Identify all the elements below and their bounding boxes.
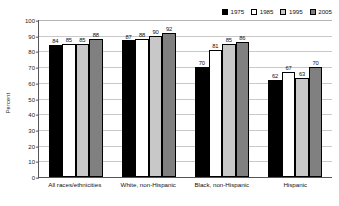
bar-slot: 67 <box>282 20 296 177</box>
bar-group: 62676370 <box>259 20 332 177</box>
bar-value-label: 81 <box>212 44 218 50</box>
bar-slot: 88 <box>135 20 149 177</box>
bar-group: 87889092 <box>112 20 185 177</box>
bar-value-label: 85 <box>79 38 85 44</box>
bar-value-label: 70 <box>199 61 205 67</box>
legend-swatch-icon <box>222 9 228 15</box>
bar-slot: 85 <box>76 20 90 177</box>
legend-swatch-icon <box>251 9 257 15</box>
bar-slot: 70 <box>309 20 323 177</box>
plot-wrapper: 1009080706050403020100 84858588878890927… <box>38 20 332 178</box>
gridline: 0 <box>39 177 332 178</box>
bar-group-bars: 70818586 <box>186 20 259 177</box>
bar-value-label: 88 <box>139 33 145 39</box>
bar-value-label: 84 <box>52 39 58 45</box>
bar-value-label: 92 <box>166 27 172 33</box>
bar-slot: 84 <box>49 20 63 177</box>
bar-slot: 86 <box>236 20 250 177</box>
bar-group: 70818586 <box>186 20 259 177</box>
bar-slot: 62 <box>268 20 282 177</box>
bar-2005[interactable]: 88 <box>89 39 103 177</box>
bar-1985[interactable]: 81 <box>209 50 223 177</box>
x-axis-labels: All races/ethnicitiesWhite, non-Hispanic… <box>38 181 332 188</box>
bar-group-bars: 87889092 <box>112 20 185 177</box>
bar-2005[interactable]: 92 <box>162 33 176 177</box>
bar-slot: 85 <box>222 20 236 177</box>
bar-value-label: 63 <box>299 72 305 78</box>
chart-legend: 1975198519952005 <box>222 9 332 15</box>
bar-value-label: 88 <box>93 33 99 39</box>
x-axis-label: All races/ethnicities <box>38 181 112 188</box>
bar-slot: 92 <box>162 20 176 177</box>
bar-1975[interactable]: 62 <box>268 80 282 177</box>
y-axis-title-text: Percent <box>5 93 11 114</box>
y-axis-title: Percent <box>2 0 14 206</box>
bar-1995[interactable]: 85 <box>222 44 236 177</box>
legend-label: 1995 <box>289 9 303 15</box>
bar-2005[interactable]: 70 <box>309 67 323 177</box>
bar-value-label: 90 <box>152 30 158 36</box>
legend-item-1975[interactable]: 1975 <box>222 9 244 15</box>
legend-swatch-icon <box>280 9 286 15</box>
bar-value-label: 86 <box>239 36 245 42</box>
bar-slot: 63 <box>295 20 309 177</box>
bar-value-label: 87 <box>125 35 131 41</box>
bar-value-label: 67 <box>285 66 291 72</box>
bar-slot: 81 <box>209 20 223 177</box>
bar-group-bars: 84858588 <box>39 20 112 177</box>
x-axis-label: Black, non-Hispanic <box>185 181 259 188</box>
bar-slot: 87 <box>122 20 136 177</box>
x-axis-label: Hispanic <box>259 181 333 188</box>
bar-1975[interactable]: 87 <box>122 40 136 177</box>
bar-1985[interactable]: 67 <box>282 72 296 177</box>
bar-slot: 88 <box>89 20 103 177</box>
plot-area: 1009080706050403020100 84858588878890927… <box>38 20 332 178</box>
bar-value-label: 70 <box>312 61 318 67</box>
bar-groups: 84858588878890927081858662676370 <box>39 20 332 177</box>
legend-swatch-icon <box>310 9 316 15</box>
bar-1985[interactable]: 85 <box>62 44 76 177</box>
bar-value-label: 85 <box>226 38 232 44</box>
bar-slot: 70 <box>195 20 209 177</box>
legend-label: 2005 <box>318 9 332 15</box>
legend-label: 1975 <box>230 9 244 15</box>
y-axis-tick-mark <box>36 178 39 179</box>
legend-item-1995[interactable]: 1995 <box>280 9 302 15</box>
bar-group: 84858588 <box>39 20 112 177</box>
bar-1985[interactable]: 88 <box>135 39 149 177</box>
x-axis-label: White, non-Hispanic <box>112 181 186 188</box>
bar-1995[interactable]: 85 <box>76 44 90 177</box>
bar-chart: 1975198519952005 Percent 100908070605040… <box>0 0 339 206</box>
legend-item-1985[interactable]: 1985 <box>251 9 273 15</box>
bar-2005[interactable]: 86 <box>236 42 250 177</box>
legend-item-2005[interactable]: 2005 <box>310 9 332 15</box>
bar-1995[interactable]: 63 <box>295 78 309 177</box>
bar-1975[interactable]: 70 <box>195 67 209 177</box>
bar-1975[interactable]: 84 <box>49 45 63 177</box>
bar-slot: 85 <box>62 20 76 177</box>
bar-group-bars: 62676370 <box>259 20 332 177</box>
bar-1995[interactable]: 90 <box>149 36 163 177</box>
bar-slot: 90 <box>149 20 163 177</box>
legend-label: 1985 <box>260 9 274 15</box>
bar-value-label: 85 <box>66 38 72 44</box>
bar-value-label: 62 <box>272 74 278 80</box>
